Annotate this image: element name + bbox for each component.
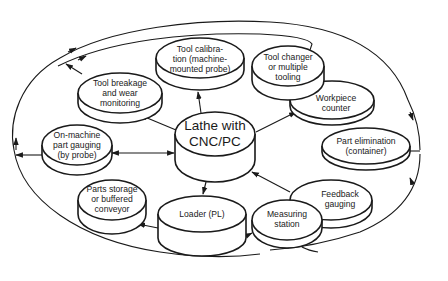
edge-loader-measuring [250, 233, 252, 234]
gauging-line-2: part gauging [53, 140, 101, 150]
node-on-machine-gauging: On-machine part gauging (by probe) [42, 125, 112, 175]
gauging-line-3: (by probe) [57, 150, 96, 160]
gauging-line-1: On-machine [54, 130, 101, 140]
tool-breakage-line-1: Tool breakage [93, 78, 147, 88]
edge-lathe-workpiece-counter [256, 112, 296, 132]
loader-label: Loader (PL) [179, 209, 225, 219]
tool-breakage-line-2: and wear [102, 88, 137, 98]
workpiece-counter-line-1: Workpiece [316, 93, 357, 103]
tool-changer-line-3: tooling [275, 72, 301, 82]
workpiece-counter-line-2: counter [322, 103, 351, 113]
part-elimination-line-2: (container) [345, 146, 386, 156]
tool-changer-line-2: or multiple [268, 62, 308, 72]
lathe-line-1: Lathe with [184, 118, 246, 133]
arrow-right-up [410, 178, 413, 185]
lathe-line-2: CNC/PC [189, 134, 241, 149]
lathe-cell-diagram: Tool calibra- tion (machine- mounted pro… [0, 0, 448, 281]
node-part-elimination: Part elimination (container) [322, 128, 410, 170]
tool-calibration-line-2: tion (machine- [173, 54, 228, 64]
feedback-gauging-line-1: Feedback [321, 189, 359, 199]
node-parts-storage: Parts storage or buffered conveyor [78, 180, 146, 234]
measuring-station-line-1: Measuring [267, 209, 307, 219]
tool-calibration-line-1: Tool calibra- [177, 44, 223, 54]
parts-storage-line-2: or buffered [91, 194, 133, 204]
node-loader: Loader (PL) [158, 196, 246, 256]
parts-storage-line-1: Parts storage [86, 184, 137, 194]
node-tool-breakage: Tool breakage and wear monitoring [78, 73, 162, 123]
node-measuring-station: Measuring station [252, 200, 322, 248]
feedback-gauging-line-2: gauging [325, 199, 356, 209]
part-elimination-line-1: Part elimination [336, 136, 395, 146]
tool-changer-line-1: Tool changer [263, 52, 312, 62]
measuring-station-line-2: station [274, 219, 300, 229]
node-tool-changer: Tool changer or multiple tooling [252, 46, 324, 100]
edge-lathe-loader [203, 182, 206, 194]
tool-breakage-line-3: monitoring [100, 98, 140, 108]
parts-storage-line-3: conveyor [95, 204, 130, 214]
edge-feedback-lathe [252, 172, 290, 192]
arrow-tool-breakage-to-loop [66, 64, 82, 74]
node-tool-calibration: Tool calibra- tion (machine- mounted pro… [156, 38, 244, 90]
node-lathe-center: Lathe with CNC/PC [175, 112, 255, 182]
arrow-right-down [410, 112, 413, 120]
tool-calibration-line-3: mounted probe) [170, 64, 231, 74]
